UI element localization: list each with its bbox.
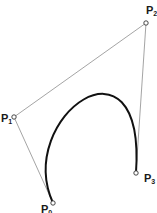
point-label-p2: P2	[146, 4, 157, 17]
point-label-p1: P1	[1, 112, 12, 125]
control-point-p3	[134, 171, 138, 175]
point-labels: P0P1P2P3	[1, 4, 157, 213]
point-label-p3: P3	[144, 172, 155, 185]
control-points	[12, 21, 148, 205]
control-point-p1	[12, 115, 16, 119]
control-point-p0	[51, 201, 55, 205]
point-label-p0: P0	[41, 203, 52, 213]
bezier-curve	[46, 94, 137, 203]
bezier-diagram: P0P1P2P3	[0, 0, 157, 213]
control-polygon	[14, 23, 146, 203]
control-point-p2	[144, 21, 148, 25]
